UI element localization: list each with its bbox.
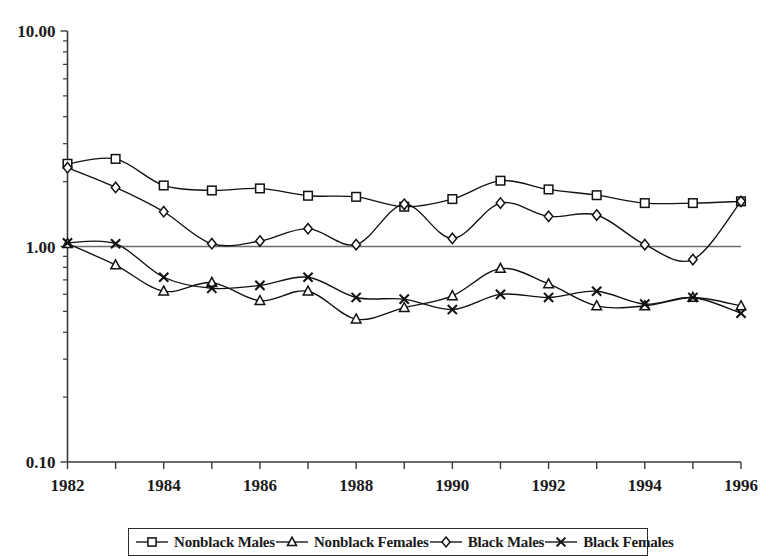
data-series-group <box>63 155 746 323</box>
x-tick-label: 1992 <box>532 476 566 495</box>
legend-item-black-females: Black Females <box>544 534 673 551</box>
chart-legend: Nonblack MalesNonblack FemalesBlack Male… <box>128 528 648 556</box>
legend-item-black-males: Black Males <box>429 534 545 551</box>
legend-item-nonblack-males: Nonblack Males <box>135 534 275 551</box>
x-tick-label: 1982 <box>51 476 85 495</box>
legend-item-label: Black Females <box>583 534 673 551</box>
diamond-marker-icon <box>429 535 463 549</box>
legend-item-nonblack-females: Nonblack Females <box>275 534 429 551</box>
series-black-males <box>63 163 745 265</box>
x-axis <box>68 462 742 469</box>
legend-item-label: Nonblack Females <box>314 534 429 551</box>
x-tick-label: 1988 <box>339 476 373 495</box>
series-markers <box>63 239 746 323</box>
y-axis-tick-labels: 10.001.000.10 <box>17 22 55 472</box>
x-tick-label: 1994 <box>628 476 663 495</box>
square-marker-icon <box>135 535 169 549</box>
series-nonblack-females <box>63 239 746 323</box>
x-axis-tick-labels: 19821984198619881990199219941996 <box>51 476 759 495</box>
legend-item-label: Black Males <box>468 534 545 551</box>
x-tick-label: 1984 <box>147 476 182 495</box>
chart-container: 10.001.000.10 19821984198619881990199219… <box>0 0 774 559</box>
x-tick-label: 1996 <box>724 476 758 495</box>
y-tick-label: 0.10 <box>26 453 56 472</box>
triangle-marker-icon <box>275 535 309 549</box>
x-tick-label: 1990 <box>435 476 469 495</box>
series-markers <box>63 163 745 265</box>
legend-item-label: Nonblack Males <box>174 534 275 551</box>
y-tick-label: 1.00 <box>26 238 56 257</box>
y-tick-label: 10.00 <box>17 22 55 41</box>
line-chart-plot: 10.001.000.10 19821984198619881990199219… <box>0 0 774 559</box>
x-tick-label: 1986 <box>243 476 277 495</box>
cross-marker-icon <box>544 535 578 549</box>
